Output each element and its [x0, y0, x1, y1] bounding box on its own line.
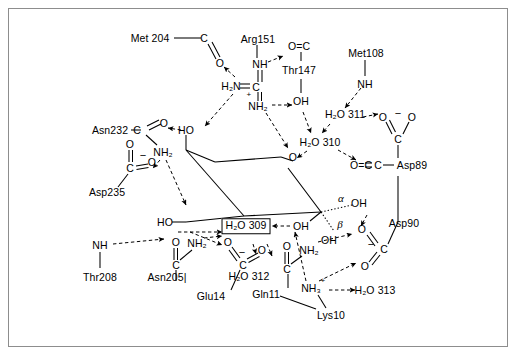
water-label-313: H₂O 313 [355, 285, 396, 296]
atom-asp89-c: C [394, 134, 402, 145]
atom-asp89-o-right: O [408, 112, 416, 123]
charge-asp89-minus: − [395, 108, 402, 119]
water-label-311: H₂O 311 [325, 109, 365, 120]
atom-asn205-o: O [172, 237, 180, 248]
residue-label-thr147: Thr147 [282, 65, 316, 76]
atom-asp89-o-left: O [379, 112, 387, 123]
anomeric-alpha-label: α [338, 193, 344, 204]
residue-label-met108: Met108 [348, 48, 384, 59]
hydrogen-bonds [113, 56, 378, 290]
residue-label-arg151: Arg151 [241, 34, 275, 45]
residue-label-glu14: Glu14 [197, 291, 226, 302]
residue-label-asp89: Asp89 [397, 160, 427, 171]
water-label-312: H₂O 312 [229, 271, 270, 282]
atom-met204-o: O [216, 58, 224, 69]
bond-network [0, 0, 517, 356]
atom-met108-nh: NH [357, 79, 372, 90]
atom-gln11-nh2: NH₂ [299, 245, 319, 256]
ligand-oh-alpha: OH [351, 198, 367, 209]
atom-thr147-oec: O=C [288, 41, 310, 52]
residue-label-asp90: Asp90 [389, 218, 419, 229]
charge-asp90-minus: − [368, 239, 375, 250]
atom-arg151-c: C [252, 82, 260, 93]
atom-arg151-nh: NH [252, 59, 267, 70]
atom-thr208-nh: NH [92, 240, 107, 251]
atom-gln11-o: O [283, 241, 291, 252]
figure-canvas: Met 204 C O Arg151 NH C + H₂N NH₂ O=C Th… [0, 0, 517, 356]
atom-asp235-o-top: O [126, 139, 134, 150]
atom-asp90-o-lower: O [361, 261, 369, 272]
atom-asn205-nh2: NH₂ [187, 238, 207, 249]
residue-label-thr208: Thr208 [83, 272, 117, 283]
atom-asp90-o-upper: O [358, 224, 366, 235]
ligand-ho-top: HO [178, 125, 194, 136]
atom-met204-c: C [200, 33, 208, 44]
residue-label-asn232: Asn232 [92, 125, 128, 136]
atom-asn232-nh2: NH₂ [153, 147, 173, 158]
atom-glu14-c: C [239, 260, 247, 271]
atom-asn205-c: C [172, 260, 180, 271]
atom-lys10-nh3: NH₃ [301, 283, 321, 294]
ligand-ring-oxygen: O [289, 152, 297, 163]
residue-label-asp235: Asp235 [89, 187, 125, 198]
atom-gln11-c: C [283, 264, 291, 275]
charge-lys10-plus: + [321, 277, 326, 285]
atom-asn232-o: O [160, 118, 168, 129]
atom-asp235-o-right: O [148, 157, 156, 168]
atom-asp90-c: C [380, 244, 388, 255]
residue-label-lys10: Lys10 [317, 310, 345, 321]
ligand-oh-beta: OH [321, 235, 337, 246]
atom-asp89-oec: O=C [350, 160, 372, 171]
water-label-310: H₂O 310 [300, 137, 341, 148]
charge-arg151-plus: + [247, 91, 252, 99]
ligand-ho-right: OH [293, 221, 309, 232]
anomeric-beta-label: β [337, 219, 343, 230]
atom-glu14-o-right: O [258, 245, 266, 256]
atom-asn232-c: C [133, 125, 141, 136]
residue-label-gln11: Gln11 [252, 289, 280, 300]
atom-glu14-o-up: O [224, 237, 232, 248]
charge-asp235-minus: − [140, 150, 147, 161]
ligand-ho-left: HO [157, 217, 173, 228]
atom-asp235-c: C [126, 163, 134, 174]
residue-label-met204: Met 204 [131, 33, 170, 44]
atom-thr147-oh: OH [293, 96, 309, 107]
water-label-309-boxed: H₂O 309 [222, 218, 271, 234]
atom-arg151-nh2: NH₂ [248, 101, 268, 112]
atom-arg151-h2n: H₂N [221, 81, 241, 92]
residue-label-asn205: Asn205| [147, 272, 186, 283]
atom-asp89-c2: C [374, 160, 382, 171]
charge-glu14-minus: − [239, 247, 246, 258]
